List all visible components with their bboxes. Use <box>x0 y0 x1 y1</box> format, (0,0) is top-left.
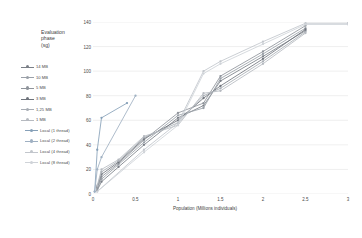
legend-swatch-icon <box>21 96 34 103</box>
data-point <box>100 117 102 119</box>
data-point <box>202 72 204 74</box>
data-point <box>177 112 179 114</box>
legend-item-label: 10 MB <box>36 75 48 81</box>
data-point <box>219 75 221 77</box>
legend-item-label: 1,25 MB <box>36 107 52 113</box>
data-point <box>117 166 119 168</box>
legend-item-label: Local (2 thread) <box>40 138 70 144</box>
series-line <box>97 31 305 191</box>
legend-swatch-icon <box>25 127 38 134</box>
legend-item-label: 3 MB <box>36 96 46 102</box>
legend-swatch-icon <box>21 106 34 113</box>
legend-swatch-icon <box>25 149 38 156</box>
data-point <box>262 50 264 52</box>
y-axis-tick-labels: 020406080100120140 <box>73 22 91 194</box>
legend-item-label: 5 MB <box>36 85 46 91</box>
data-point <box>143 141 145 143</box>
data-point <box>143 135 145 137</box>
data-point <box>143 144 145 146</box>
data-point <box>94 190 96 192</box>
legend-swatch-icon <box>21 74 34 81</box>
y-axis-tick-label: 140 <box>75 20 91 25</box>
data-point <box>219 85 221 87</box>
data-point <box>177 117 179 119</box>
data-point <box>304 23 306 25</box>
series-local-4-thread <box>96 22 348 193</box>
data-point <box>262 41 264 43</box>
x-axis-tick-label: 3 <box>337 197 359 202</box>
x-axis-tick-label: 2.5 <box>295 197 317 202</box>
legend-item-label: 14 MB <box>36 64 48 70</box>
data-point <box>262 43 264 45</box>
data-point <box>100 156 102 158</box>
data-point <box>96 184 98 186</box>
data-point <box>100 168 102 170</box>
y-axis-tick-label: 120 <box>75 44 91 49</box>
y-axis-tick-label: 60 <box>75 118 91 123</box>
data-point <box>219 63 221 65</box>
data-point <box>304 28 306 30</box>
data-point <box>96 168 98 170</box>
data-point <box>96 190 98 192</box>
data-point <box>202 102 204 104</box>
series-line <box>97 24 348 191</box>
data-point <box>219 87 221 89</box>
legend-item-label: Local (8 thread) <box>40 160 70 166</box>
x-axis-tick-label: 1.5 <box>210 197 232 202</box>
y-axis-tick-label: 100 <box>75 69 91 74</box>
data-point <box>262 63 264 65</box>
x-axis-tick-label: 1 <box>167 197 189 202</box>
plot-svg <box>93 22 348 194</box>
y-axis-tick-label: 80 <box>75 93 91 98</box>
data-point <box>202 70 204 72</box>
data-point <box>202 107 204 109</box>
data-point <box>262 58 264 60</box>
x-axis-tick-label: 0.5 <box>125 197 147 202</box>
data-point <box>143 149 145 151</box>
data-point <box>202 97 204 99</box>
legend-item-label: 1 MB <box>36 117 46 123</box>
data-point <box>219 90 221 92</box>
legend-swatch-icon <box>25 138 38 145</box>
data-point <box>202 92 204 94</box>
legend-item-label: Local (1 thread) <box>40 128 70 134</box>
data-point <box>96 149 98 151</box>
data-point <box>304 32 306 34</box>
data-point <box>262 60 264 62</box>
data-point <box>143 151 145 153</box>
data-point <box>262 55 264 57</box>
plot-area <box>93 22 348 194</box>
data-point <box>177 114 179 116</box>
y-axis-tick-label: 20 <box>75 167 91 172</box>
x-axis-title: Population (Millions individuals) <box>168 206 242 212</box>
data-point <box>262 53 264 55</box>
legend-item-label: Local (4 thread) <box>40 149 70 155</box>
y-axis-tick-label: 40 <box>75 142 91 147</box>
evaluation-phase-line-chart: 14 MB10 MB5 MB3 MB1,25 MB1 MBLocal (1 th… <box>0 0 362 238</box>
x-axis-tick-label: 0 <box>82 197 104 202</box>
data-point <box>219 60 221 62</box>
x-axis-tick-label: 2 <box>252 197 274 202</box>
series-line <box>97 23 348 191</box>
legend-swatch-icon <box>21 117 34 124</box>
legend-swatch-icon <box>21 64 34 71</box>
data-point <box>117 158 119 160</box>
legend-swatch-icon <box>21 85 34 92</box>
data-point <box>177 124 179 126</box>
legend-swatch-icon <box>25 159 38 166</box>
series-local-8-thread <box>96 23 348 192</box>
y-axis-tick-label: 0 <box>75 192 91 197</box>
data-point <box>134 95 136 97</box>
data-point <box>126 102 128 104</box>
